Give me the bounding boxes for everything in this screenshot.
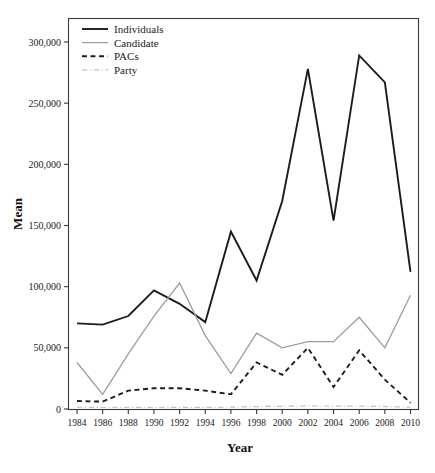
x-tick-label: 1998	[247, 418, 266, 428]
x-tick-label: 2006	[350, 418, 369, 428]
x-tick-label: 1990	[144, 418, 163, 428]
legend-label-party: Party	[114, 64, 138, 76]
y-tick-label: 0	[56, 404, 61, 415]
y-axis-title: Mean	[10, 197, 25, 230]
y-tick-label: 250,000	[29, 98, 62, 109]
x-tick-label: 1984	[68, 418, 87, 428]
legend-label-pacs: PACs	[114, 50, 139, 62]
y-tick-label: 100,000	[29, 281, 62, 292]
series-line-candidate	[77, 283, 411, 394]
y-axis: 050,000100,000150,000200,000250,000300,0…	[29, 37, 70, 415]
series-line-party	[77, 406, 411, 408]
x-tick-label: 1994	[196, 418, 215, 428]
x-axis-title: Year	[227, 440, 253, 455]
x-tick-label: 1992	[170, 418, 189, 428]
x-tick-label: 2010	[401, 418, 420, 428]
x-tick-label: 2000	[273, 418, 292, 428]
y-tick-label: 200,000	[29, 159, 62, 170]
x-tick-label: 1986	[93, 418, 112, 428]
y-tick-label: 50,000	[34, 342, 62, 353]
y-tick-label: 150,000	[29, 220, 62, 231]
x-tick-label: 2004	[324, 418, 343, 428]
x-tick-label: 1988	[119, 418, 138, 428]
line-chart: 050,000100,000150,000200,000250,000300,0…	[0, 0, 435, 473]
legend-label-individuals: Individuals	[114, 23, 164, 35]
x-axis: 1984198619881990199219941996199820002002…	[68, 409, 421, 428]
x-tick-label: 1996	[221, 418, 240, 428]
data-series-group	[77, 55, 411, 407]
legend-label-candidate: Candidate	[114, 37, 159, 49]
x-tick-label: 2002	[298, 418, 317, 428]
x-tick-label: 2008	[375, 418, 394, 428]
y-tick-label: 300,000	[29, 37, 62, 48]
series-line-individuals	[77, 55, 411, 324]
chart-legend: IndividualsCandidatePACsParty	[82, 23, 164, 76]
chart-container: 050,000100,000150,000200,000250,000300,0…	[0, 0, 435, 473]
plot-frame	[69, 19, 419, 410]
